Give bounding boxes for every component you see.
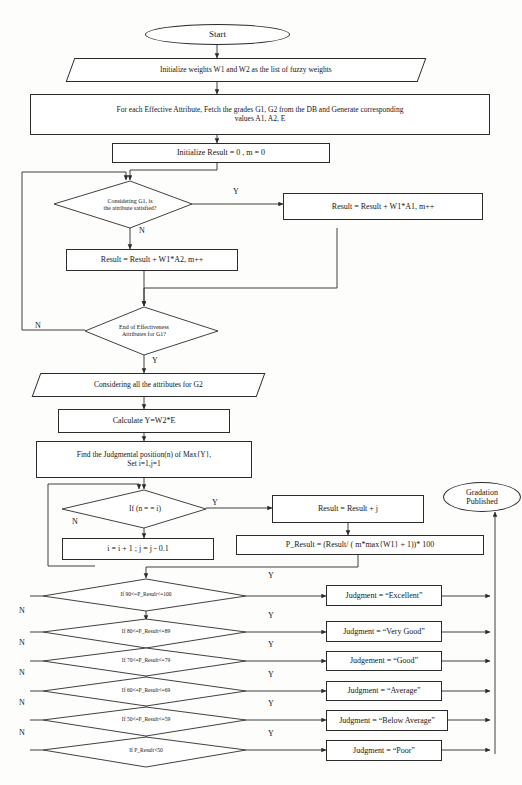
node-judgment-poor-label: Judgment = “Poor” (353, 746, 415, 755)
node-calculate-y[interactable]: Calculate Y=W2*E (58, 409, 230, 433)
node-judgment-below-average[interactable]: Judgment = “Below Average” (326, 710, 448, 731)
node-p-result-formula[interactable]: P_Result = (Result/ ( m*max{W1} + 1))* 1… (236, 535, 484, 555)
edge-label-n-eq-i-no: N (72, 518, 78, 526)
node-fetch-grades[interactable]: For each Effective Attribute, Fetch the … (30, 94, 490, 135)
node-calculate-y-label: Calculate Y=W2*E (113, 416, 176, 425)
node-increment-i-j[interactable]: i = i + 1 ; j = j - 0.1 (62, 538, 214, 560)
node-result-plus-j[interactable]: Result = Result + j (272, 495, 424, 523)
node-result-w1a1[interactable]: Result = Result + W1*A1, m++ (283, 193, 483, 220)
edge-label-grade-2-no: N (19, 639, 25, 647)
node-result-w1a1-label: Result = Result + W1*A1, m++ (332, 202, 434, 211)
edge-label-grade-5-yes: Y (268, 700, 274, 708)
node-initialize-weights[interactable]: Initialize weights W1 and W2 as the list… (66, 58, 427, 82)
node-considering-g2[interactable]: Considering all the attributes for G2 (32, 373, 266, 397)
node-decision-n-equals-i-label: If (n = = i) (129, 505, 161, 514)
node-result-w1a2-label: Result = Result + W1*A2, m++ (101, 255, 203, 264)
node-judgment-very-good[interactable]: Judgment = “Very Good” (326, 621, 442, 642)
node-p-result-formula-label: P_Result = (Result/ ( m*max{W1} + 1))* 1… (286, 540, 434, 549)
node-decision-grade-5-label: If 50<=P_Result<=59 (122, 716, 170, 722)
node-result-plus-j-label: Result = Result + j (318, 504, 378, 513)
edge-label-end-attrs-no: N (35, 322, 41, 330)
edge-label-grade-4-no: N (19, 699, 25, 707)
node-decision-grade-1[interactable]: If 90<=P_Result<=100 (96, 589, 196, 599)
node-gradation-published-line2: Published (466, 497, 498, 506)
edge-label-grade-4-yes: Y (268, 671, 274, 679)
node-decision-considering-g1-line2: the attribute satisfied? (104, 205, 157, 212)
node-fetch-grades-line2: values A1, A2, E (235, 115, 286, 124)
node-increment-i-j-label: i = i + 1 ; j = j - 0.1 (107, 544, 168, 553)
node-find-judgmental-position[interactable]: Find the Judgmental position(n) of Max{Y… (36, 441, 252, 478)
edge-label-grade-1-yes: Y (268, 572, 274, 580)
node-decision-end-attributes-line2: Attributes for G1? (122, 331, 166, 338)
node-gradation-published-line1: Gradation (466, 488, 498, 497)
node-decision-considering-g1-line1: Considering G1, is (107, 198, 152, 205)
node-decision-considering-g1[interactable]: Considering G1, is the attribute satisfi… (66, 193, 194, 217)
node-decision-grade-2-label: If 80<=P_Result<=89 (122, 628, 170, 634)
edge-label-end-attrs-yes: Y (152, 357, 158, 365)
edge-label-grade-6-yes: Y (268, 730, 274, 738)
node-decision-grade-3-label: If 70<=P_Result<=79 (122, 657, 170, 663)
node-decision-n-equals-i[interactable]: If (n = = i) (104, 502, 186, 516)
node-judgment-very-good-label: Judgment = “Very Good” (343, 627, 425, 636)
node-initialize-result[interactable]: Initialize Result = 0 , m = 0 (112, 143, 330, 163)
edge-label-grade-3-yes: Y (268, 641, 274, 649)
node-decision-grade-3[interactable]: If 70<=P_Result<=79 (96, 655, 196, 665)
node-decision-grade-4-label: If 60<=P_Result<=69 (122, 687, 170, 693)
node-judgment-average-label: Judgment = “Average” (347, 686, 420, 695)
node-decision-end-attributes[interactable]: End of Effectiveness Attributes for G1? (90, 320, 198, 342)
node-decision-grade-2[interactable]: If 80<=P_Result<=89 (96, 626, 196, 636)
node-decision-grade-6[interactable]: If P_Result<50 (96, 745, 196, 755)
node-judgment-excellent[interactable]: Judgment = “Excellent” (326, 585, 442, 606)
node-gradation-published[interactable]: Gradation Published (443, 482, 521, 512)
node-judgment-good[interactable]: Judgement = “Good” (326, 651, 442, 671)
node-decision-grade-5[interactable]: If 50<=P_Result<=59 (96, 714, 196, 724)
node-decision-grade-6-label: If P_Result<50 (129, 747, 163, 753)
flowchart-canvas: Start Initialize weights W1 and W2 as th… (0, 0, 522, 785)
edge-label-grade-3-no: N (19, 669, 25, 677)
node-decision-end-attributes-line1: End of Effectiveness (119, 324, 169, 331)
node-judgment-excellent-label: Judgment = “Excellent” (346, 591, 423, 600)
edge-label-grade-2-yes: Y (268, 612, 274, 620)
node-judgment-average[interactable]: Judgment = “Average” (326, 681, 442, 701)
node-result-w1a2[interactable]: Result = Result + W1*A2, m++ (66, 249, 238, 271)
node-initialize-result-label: Initialize Result = 0 , m = 0 (177, 148, 265, 157)
edge-label-g1-yes: Y (233, 188, 239, 196)
node-judgment-good-label: Judgement = “Good” (350, 656, 418, 665)
node-judgment-below-average-label: Judgment = “Below Average” (339, 716, 435, 725)
node-decision-grade-4[interactable]: If 60<=P_Result<=69 (96, 685, 196, 695)
node-judgment-poor[interactable]: Judgment = “Poor” (326, 740, 442, 761)
node-find-judgmental-position-line2: Set i=1,j=1 (127, 460, 160, 469)
edge-label-n-eq-i-yes: Y (212, 499, 218, 507)
node-start[interactable]: Start (145, 24, 290, 45)
edge-label-grade-1-no: N (19, 607, 25, 615)
node-initialize-weights-label: Initialize weights W1 and W2 as the list… (71, 66, 421, 75)
edge-label-g1-no: N (139, 227, 145, 235)
node-start-label: Start (209, 29, 226, 39)
node-considering-g2-label: Considering all the attributes for G2 (37, 381, 260, 390)
node-decision-grade-1-label: If 90<=P_Result<=100 (120, 591, 171, 597)
edge-label-grade-5-no: N (19, 729, 25, 737)
